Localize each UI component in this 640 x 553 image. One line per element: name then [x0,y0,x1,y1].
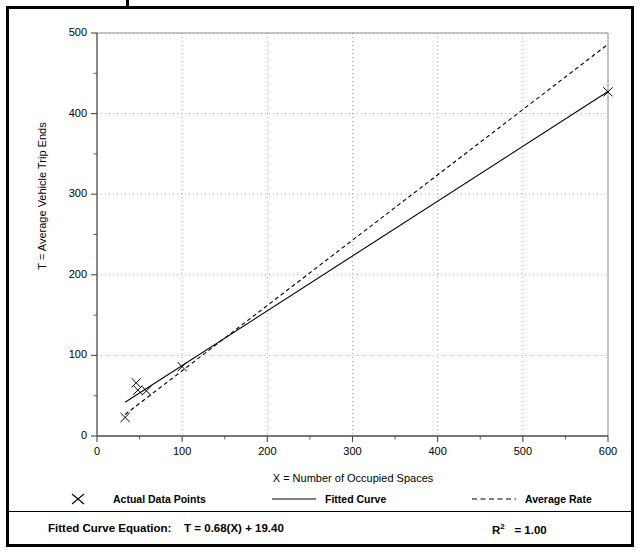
equation-value: T = 0.68(X) + 19.40 [184,522,284,534]
chart-figure: T = Average Vehicle Trip Ends X = Number… [0,0,640,553]
x-tick-label: 400 [413,445,463,457]
x-tick-label: 0 [72,445,122,457]
legend-item-actual-data-points: Actual Data Points [60,487,206,511]
y-tick-label: 300 [41,187,87,199]
x-tick-label: 100 [157,445,207,457]
y-tick-label: 500 [41,26,87,38]
x-tick-label: 300 [328,445,378,457]
r-squared: R2 = 1.00 [492,522,547,536]
chart-canvas [0,0,640,553]
x-axis-title: X = Number of Occupied Spaces [97,472,609,484]
chart-page: T = Average Vehicle Trip Ends X = Number… [0,0,640,553]
y-tick-label: 100 [41,348,87,360]
r-squared-exponent: 2 [500,522,504,531]
legend-label: Fitted Curve [325,493,386,505]
y-tick-label: 200 [41,268,87,280]
legend-item-fitted-curve: Fitted Curve [272,487,386,511]
legend-item-average-rate: Average Rate [472,487,592,511]
x-tick-label: 500 [498,445,548,457]
legend-label: Average Rate [525,493,592,505]
legend-label: Actual Data Points [113,493,206,505]
y-tick-label: 0 [41,429,87,441]
chart-footer: Fitted Curve Equation: T = 0.68(X) + 19.… [12,516,628,546]
chart-legend: Actual Data Points Fitted Curve Average … [12,487,628,511]
x-tick-label: 600 [583,445,633,457]
r-squared-value: = 1.00 [514,524,546,536]
x-tick-label: 200 [242,445,292,457]
solid-line-icon [272,492,316,506]
dashed-line-icon [472,492,516,506]
equation-label: Fitted Curve Equation: [48,522,171,534]
footer-divider [9,511,631,512]
y-tick-label: 400 [41,107,87,119]
fitted-curve-equation: Fitted Curve Equation: T = 0.68(X) + 19.… [48,522,284,534]
x-marker-icon [60,492,104,506]
